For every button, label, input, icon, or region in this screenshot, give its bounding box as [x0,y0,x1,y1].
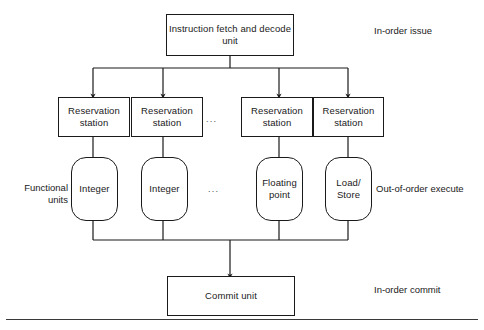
instruction-fetch-decode-unit[interactable]: Instruction fetch and decode unit [166,14,294,56]
reservation-station-3[interactable]: Reservation station [241,97,313,137]
functional-unit-load-store[interactable]: Load/ Store [325,157,372,221]
reservation-station-4[interactable]: Reservation station [313,97,384,137]
diagram-canvas: Instruction fetch and decode unit Reserv… [0,0,484,330]
functional-unit-integer-1[interactable]: Integer [71,157,118,221]
reservation-station-1[interactable]: Reservation station [58,97,130,137]
reservation-stations-ellipsis: ... [206,114,217,124]
stage-label-in-order-issue: In-order issue [374,25,432,37]
commit-unit[interactable]: Commit unit [167,276,295,316]
bottom-divider-rule [6,319,478,320]
stage-label-in-order-commit: In-order commit [374,284,441,296]
reservation-station-2[interactable]: Reservation station [131,97,203,137]
stage-label-out-of-order-execute: Out-of-order execute [376,183,464,195]
functional-units-ellipsis: ... [208,184,219,194]
functional-unit-floating-point[interactable]: Floating point [256,157,303,221]
side-label-functional-units: Functional units [0,182,68,206]
functional-unit-integer-2[interactable]: Integer [141,157,188,221]
